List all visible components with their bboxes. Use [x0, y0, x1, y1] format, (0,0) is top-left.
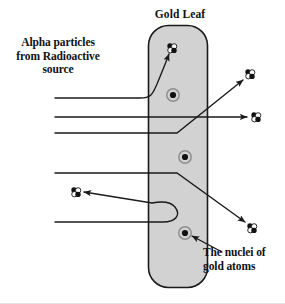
- gold-leaf-foil: [149, 26, 208, 288]
- alpha-particle-backscattered-left: [71, 187, 81, 197]
- rutherford-gold-foil-diagram: Gold Leaf Alpha particles from Radioacti…: [0, 0, 285, 304]
- alpha-particle-scattered-lower-right: [247, 223, 256, 233]
- alpha-particle-undeflected-right: [251, 112, 260, 122]
- gold-leaf-label: Gold Leaf: [140, 8, 220, 22]
- gold-nuclei-label: The nuclei of gold atoms: [203, 246, 283, 273]
- alpha-particle-scattered-upper-right: [245, 69, 255, 79]
- alpha-source-label: Alpha particles from Radioactive source: [2, 36, 114, 77]
- alpha-particle-deflected-top: [167, 43, 177, 53]
